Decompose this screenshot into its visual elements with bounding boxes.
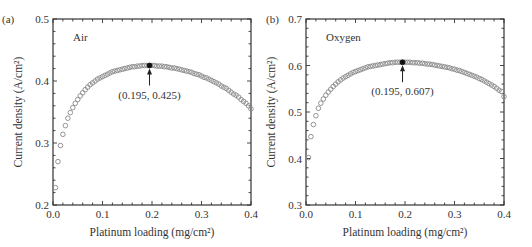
x-tick-label: 0.3 (448, 208, 462, 220)
x-tick-label: 0.1 (96, 208, 110, 220)
y-axis-label: Current density (A/cm²) (12, 56, 25, 167)
y-tick-label: 0.5 (35, 13, 49, 25)
y-tick-label: 0.3 (35, 137, 49, 149)
x-tick-label: 0.2 (398, 208, 412, 220)
data-point (80, 90, 85, 95)
data-point (311, 122, 316, 127)
optimum-label: (0.195, 0.607) (371, 85, 434, 98)
optimum-label: (0.195, 0.425) (118, 89, 181, 102)
panel-label: (a) (2, 13, 15, 26)
x-axis-label: Platinum loading (mg/cm²) (343, 226, 468, 239)
y-tick-label: 0.7 (288, 13, 302, 25)
y-tick-label: 0.5 (288, 106, 302, 118)
data-point (78, 94, 83, 99)
data-point (306, 155, 311, 160)
y-tick-label: 0.4 (35, 75, 49, 87)
optimum-point (400, 60, 405, 65)
y-tick-label: 0.2 (35, 199, 49, 211)
x-tick-label: 0.4 (244, 208, 258, 220)
series-annotation: Oxygen (326, 31, 361, 43)
arrow-icon (400, 65, 405, 71)
data-point (314, 113, 319, 118)
y-tick-label: 0.3 (288, 199, 302, 211)
data-point (63, 123, 68, 128)
panel-a-air: 0.00.10.20.30.40.20.30.40.5(a)AirPlatinu… (2, 13, 258, 239)
panel-label: (b) (266, 13, 279, 26)
arrow-icon (147, 69, 152, 75)
x-tick-label: 0.2 (145, 208, 159, 220)
optimum-point (147, 63, 152, 68)
panel-b-oxygen: 0.00.10.20.30.40.30.40.50.60.7(b)OxygenP… (265, 13, 511, 239)
data-point (68, 110, 73, 115)
data-point (66, 116, 71, 121)
data-point (309, 134, 314, 139)
y-tick-label: 0.4 (288, 153, 302, 165)
plot-frame (306, 19, 504, 205)
data-point (58, 143, 63, 148)
x-tick-label: 0.3 (195, 208, 209, 220)
y-axis-label: Current density (A/cm²) (265, 56, 278, 167)
data-point (316, 106, 321, 111)
plot-frame (53, 19, 251, 205)
data-point (53, 185, 58, 190)
x-tick-label: 0.1 (349, 208, 363, 220)
y-tick-label: 0.6 (288, 60, 302, 72)
series-annotation: Air (73, 31, 88, 43)
chart-figure: 0.00.10.20.30.40.20.30.40.5(a)AirPlatinu… (0, 0, 532, 247)
data-point (71, 105, 76, 110)
data-point (61, 132, 66, 137)
x-axis-label: Platinum loading (mg/cm²) (90, 226, 215, 239)
data-point (56, 159, 61, 164)
x-tick-label: 0.4 (497, 208, 511, 220)
